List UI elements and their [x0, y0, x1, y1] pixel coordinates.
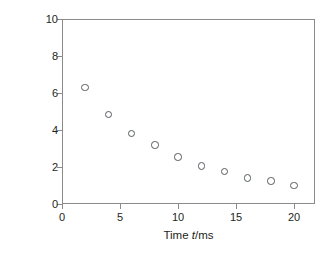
data-point [290, 182, 298, 190]
data-point [151, 141, 159, 149]
y-axis-title-text: [H2O2]t/mol dm−3 [10, 0, 24, 33]
data-point [81, 84, 89, 92]
x-tick-label: 10 [172, 212, 184, 223]
x-tick-label: 20 [288, 212, 300, 223]
x-tick-label: 0 [59, 212, 65, 223]
y-tick-label: 2 [52, 162, 58, 173]
y-tick-label: 0 [52, 199, 58, 210]
data-point [128, 130, 136, 138]
x-tick-mark [236, 204, 237, 209]
y-tick-label: 10 [46, 14, 58, 25]
data-point [198, 162, 206, 170]
x-tick-mark [178, 204, 179, 209]
x-tick-mark [120, 204, 121, 209]
x-tick-label: 5 [117, 212, 123, 223]
x-tick-mark [294, 204, 295, 209]
y-tick-label: 6 [52, 88, 58, 99]
y-tick-label: 4 [52, 125, 58, 136]
x-axis-title-prefix: Time [163, 229, 191, 241]
chart-figure: 0 2 4 6 8 10 0 5 [0, 0, 333, 254]
y-tick-label: 8 [52, 51, 58, 62]
x-tick-label: 15 [230, 212, 242, 223]
data-point [221, 168, 229, 176]
data-point [267, 177, 275, 185]
data-point [105, 111, 113, 119]
data-series-h2o2 [62, 19, 315, 204]
y-axis-title: [H2O2]t/mol dm−3 [10, 0, 24, 33]
x-tick-mark [62, 204, 63, 209]
x-axis-title: Time t/ms [62, 230, 315, 242]
x-axis-title-suffix: /ms [195, 229, 214, 241]
data-point [174, 153, 182, 161]
data-point [244, 174, 252, 182]
